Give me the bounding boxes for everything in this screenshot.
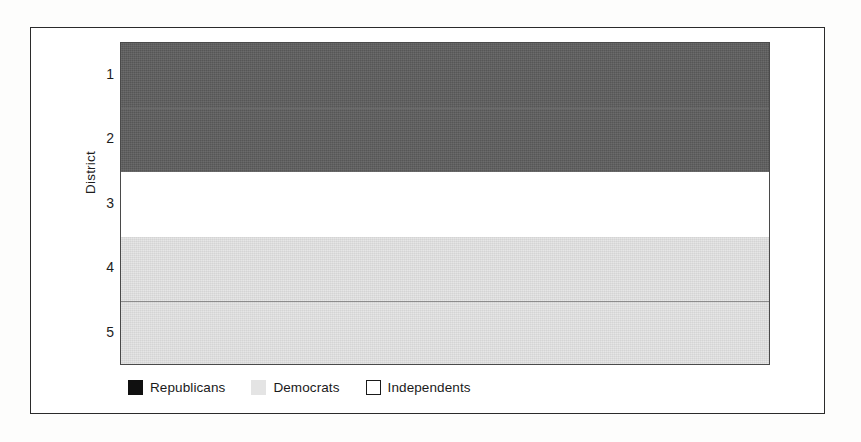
legend-item-republicans[interactable]: Republicans [128,380,225,395]
chart-legend: Republicans Democrats Independents [128,380,471,395]
legend-item-independents[interactable]: Independents [366,380,471,395]
legend-swatch-republicans-icon [128,380,143,395]
legend-swatch-independents-icon [366,380,381,395]
y-axis-tick-labels: 1 2 3 4 5 [62,42,114,365]
bar-separator-1-2 [121,108,769,109]
bar-district-2[interactable] [121,108,769,173]
y-tick-label-4: 4 [74,259,114,275]
y-tick-label-2: 2 [74,130,114,146]
bar-separator-4-5 [121,301,769,302]
legend-label-independents: Independents [388,380,471,395]
legend-label-democrats: Democrats [273,380,339,395]
legend-item-democrats[interactable]: Democrats [251,380,339,395]
bar-district-4[interactable] [121,237,769,302]
y-tick-label-3: 3 [74,195,114,211]
bar-district-3[interactable] [121,172,769,237]
y-tick-label-5: 5 [74,324,114,340]
plot-area [120,42,770,365]
bar-district-5[interactable] [121,301,769,365]
bar-district-1[interactable] [121,43,769,108]
legend-label-republicans: Republicans [150,380,225,395]
legend-swatch-democrats-icon [251,380,266,395]
y-tick-label-1: 1 [74,66,114,82]
